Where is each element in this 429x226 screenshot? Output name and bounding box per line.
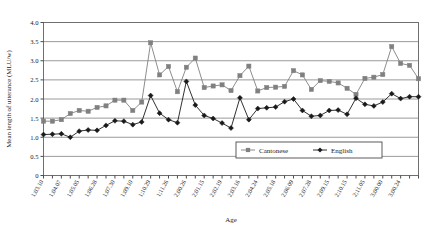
x-tick-label: 3;00.00 <box>369 179 383 198</box>
data-point <box>175 90 179 94</box>
data-point <box>238 74 242 78</box>
data-point <box>327 79 331 83</box>
x-tick-label: 2;00.26 <box>173 179 187 198</box>
data-point <box>131 108 135 112</box>
x-tick-label: 2;10.15 <box>334 179 348 198</box>
y-axis-title: Mean length of utterance (MLU/w) <box>5 50 13 148</box>
x-tick-label: 1;11.26 <box>155 179 169 198</box>
data-point <box>256 89 260 93</box>
data-point <box>41 119 45 123</box>
legend-marker <box>246 148 250 152</box>
x-tick-label: 2;11.05 <box>351 179 365 198</box>
data-point <box>265 85 269 89</box>
legend-label: Cantonese <box>259 147 288 155</box>
data-point <box>149 41 153 45</box>
data-point <box>407 63 411 67</box>
y-tick-label: 1.5 <box>30 115 39 122</box>
x-tick-label: 1;04.07 <box>48 179 62 198</box>
data-point <box>113 98 117 102</box>
data-point <box>193 56 197 60</box>
data-point <box>140 100 144 104</box>
data-point <box>247 64 251 68</box>
x-tick-label: 1;05.05 <box>66 179 80 198</box>
data-point <box>86 109 90 113</box>
data-point <box>166 64 170 68</box>
data-point <box>59 118 63 122</box>
data-point <box>68 111 72 115</box>
x-axis-title: Age <box>225 216 236 223</box>
y-tick-label: 2.0 <box>30 96 39 103</box>
data-point <box>381 72 385 76</box>
data-point <box>282 84 286 88</box>
x-tick-label: 2;02.19 <box>209 179 223 198</box>
line-chart: 00.51.01.52.02.53.03.54.0Mean length of … <box>0 0 429 226</box>
y-tick-label: 0.5 <box>30 153 39 160</box>
data-point <box>399 61 403 65</box>
x-tick-label: 1;07.30 <box>101 179 115 198</box>
x-tick-label: 1;03.10 <box>30 179 44 198</box>
x-axis: 1;03.101;04.071;05.051;06.281;07.301;09.… <box>30 176 419 198</box>
chart-container: 00.51.01.52.02.53.03.54.0Mean length of … <box>0 0 429 226</box>
data-point <box>291 69 295 73</box>
data-point <box>50 119 54 123</box>
data-point <box>372 75 376 79</box>
x-tick-label: 2;05.18 <box>262 179 276 198</box>
legend-label: English <box>331 147 353 155</box>
data-point <box>416 77 420 81</box>
x-tick-label: 2;09.15 <box>316 179 330 198</box>
y-tick-label: 3.0 <box>30 57 39 64</box>
data-point <box>363 76 367 80</box>
data-point <box>202 85 206 89</box>
x-tick-label: 2;03.16 <box>226 179 240 198</box>
data-point <box>220 83 224 87</box>
y-axis: 00.51.01.52.02.53.03.54.0 <box>30 19 43 179</box>
data-point <box>345 86 349 90</box>
data-point <box>95 105 99 109</box>
y-tick-label: 2.5 <box>30 76 39 83</box>
x-tick-label: 1;09.10 <box>119 179 133 198</box>
data-point <box>229 88 233 92</box>
data-point <box>157 73 161 77</box>
data-point <box>318 79 322 83</box>
data-point <box>122 98 126 102</box>
y-tick-label: 3.5 <box>30 38 39 45</box>
x-tick-label: 2;01.15 <box>191 179 205 198</box>
data-point <box>77 108 81 112</box>
data-point <box>300 73 304 77</box>
data-point <box>211 84 215 88</box>
y-tick-label: 0 <box>35 172 39 179</box>
x-tick-label: 2;06.09 <box>280 179 294 198</box>
x-tick-label: 1;06.28 <box>84 179 98 198</box>
data-point <box>390 44 394 48</box>
legend: CantoneseEnglish <box>236 142 382 158</box>
data-point <box>104 104 108 108</box>
data-point <box>274 85 278 89</box>
x-tick-label: 1;10.29 <box>137 179 151 198</box>
y-tick-label: 4.0 <box>30 19 39 26</box>
legend-box <box>236 142 382 158</box>
data-point <box>309 87 313 91</box>
data-point <box>184 65 188 69</box>
y-tick-label: 1.0 <box>30 134 39 141</box>
x-tick-label: 3;00.24 <box>387 179 401 198</box>
data-point <box>336 81 340 85</box>
x-tick-label: 2;07.28 <box>298 179 312 198</box>
x-tick-label: 2;04.24 <box>244 179 258 198</box>
